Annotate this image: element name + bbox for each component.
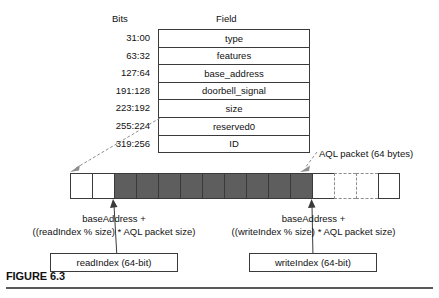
read-index-address-formula: baseAddress + ((readIndex % size) * AQL … [14,213,214,238]
bits-label-column: 31:00 63:32 127:64 191:128 223:192 255:2… [78,29,154,152]
struct-field-name: base_address [204,69,264,79]
struct-field-name: ID [229,139,239,149]
buffer-cell [92,173,114,199]
bits-row: 31:00 [78,29,154,47]
buffer-cell-occupied [202,173,224,199]
caption-divider [6,287,433,289]
buffer-cell-empty [356,173,378,199]
bits-column-header: Bits [112,13,128,24]
bits-row: 127:64 [78,64,154,82]
struct-to-buffer-arrowhead [70,165,80,172]
write-index-arrowhead [308,199,316,208]
figure-caption: FIGURE 6.3 [6,270,65,282]
buffer-cell [378,173,400,199]
struct-field-name: doorbell_signal [202,86,266,96]
read-formula-line-2: ((readIndex % size) * AQL packet size) [14,226,214,239]
queue-struct-table: type features base_address doorbell_sign… [158,29,310,153]
buffer-cell-occupied [136,173,158,199]
struct-row: ID [159,136,309,154]
bits-row: 223:192 [78,99,154,117]
struct-field-name: size [226,104,243,114]
field-column-header: Field [216,13,237,24]
ring-buffer [70,173,400,199]
write-index-box: writeIndex (64-bit) [249,253,377,272]
write-formula-line-1: baseAddress + [211,213,416,226]
read-index-label: readIndex (64-bit) [77,258,152,268]
bits-label: 223:192 [116,103,150,113]
struct-field-name: reserved0 [213,122,255,132]
bits-row: 319:256 [78,135,154,153]
bits-label: 127:64 [121,68,150,78]
buffer-cell-occupied [158,173,180,199]
buffer-cell [312,173,334,199]
bits-row: 191:128 [78,82,154,100]
struct-row: base_address [159,65,309,83]
write-index-address-formula: baseAddress + ((writeIndex % size) * AQL… [211,213,416,238]
bits-label: 319:256 [116,139,150,149]
read-formula-line-1: baseAddress + [14,213,214,226]
buffer-cell [70,173,92,199]
bits-label: 255:224 [116,121,150,131]
struct-field-name: features [217,51,251,61]
bits-label: 63:32 [126,51,150,61]
buffer-cell-occupied [246,173,268,199]
struct-row: size [159,100,309,118]
aql-packet-callout-label: AQL packet (64 bytes) [319,148,413,159]
buffer-cell-occupied [290,173,312,199]
buffer-cell-occupied [114,173,136,199]
write-index-label: writeIndex (64-bit) [275,258,351,268]
bits-row: 63:32 [78,47,154,65]
aql-callout-leader [305,152,317,168]
read-index-box: readIndex (64-bit) [50,253,178,272]
write-formula-line-2: ((writeIndex % size) * AQL packet size) [211,226,416,239]
struct-field-name: type [225,34,243,44]
struct-row: doorbell_signal [159,83,309,101]
read-index-arrowhead [110,199,118,208]
buffer-cell-occupied [224,173,246,199]
struct-row: type [159,30,309,48]
figure-6-3-diagram: Bits Field 31:00 63:32 127:64 191:128 22… [0,0,439,298]
bits-label: 31:00 [126,33,150,43]
struct-row: reserved0 [159,118,309,136]
aql-callout-arrowhead [300,166,310,173]
buffer-cell-empty [334,173,356,199]
bits-row: 255:224 [78,117,154,135]
bits-label: 191:128 [116,86,150,96]
buffer-cell-occupied [180,173,202,199]
struct-row: features [159,48,309,66]
buffer-cell-occupied [268,173,290,199]
